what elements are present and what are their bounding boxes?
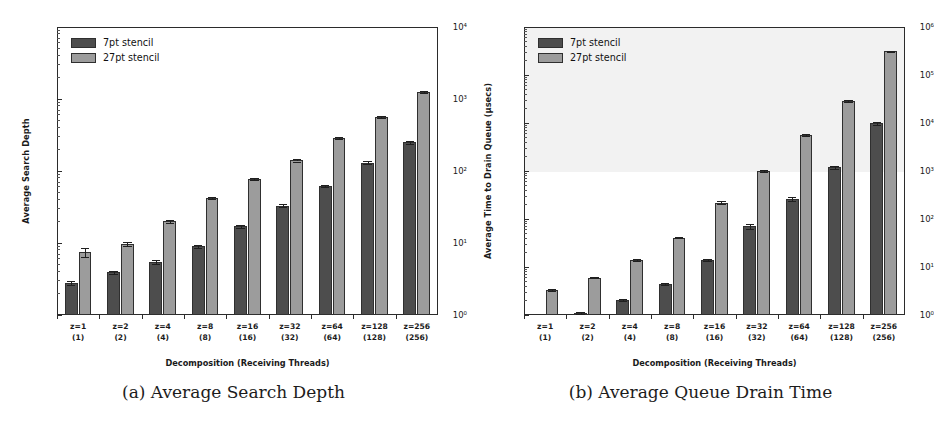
error-bar-cap xyxy=(844,100,852,101)
bar xyxy=(290,160,303,315)
y-tick-minor-mark xyxy=(524,130,527,131)
x-tick-label-top: z=2 xyxy=(112,322,128,331)
y-tick-minor-mark xyxy=(57,264,60,265)
y-tick-minor-mark xyxy=(524,127,527,128)
bar xyxy=(163,221,176,315)
error-bar-cap xyxy=(887,52,895,53)
error-bar-cap xyxy=(166,220,174,221)
x-tick-label-bottom: (8) xyxy=(666,333,678,342)
legend-label: 7pt stencil xyxy=(570,37,620,48)
y-axis-label-b: Average Time to Drain Queue (µsecs) xyxy=(483,27,493,315)
y-tick-minor-mark xyxy=(524,125,527,126)
y-tick-minor-mark xyxy=(57,186,60,187)
y-tick-minor-mark xyxy=(524,196,527,197)
x-tick-label-top: z=8 xyxy=(197,322,213,331)
bar xyxy=(673,238,686,315)
y-tick-minor-mark xyxy=(524,85,527,86)
error-bar-cap xyxy=(279,204,287,205)
x-tick-label: z=128(128) xyxy=(828,322,855,343)
error-bar-cap xyxy=(293,159,301,160)
y-tick-minor-mark xyxy=(524,173,527,174)
y-tick-minor-mark xyxy=(57,33,60,34)
y-tick-label: 10⁶ xyxy=(885,22,934,32)
error-bar-cap xyxy=(420,93,428,94)
y-tick-minor-mark xyxy=(57,114,60,115)
legend-item: 7pt stencil xyxy=(71,37,159,48)
bar xyxy=(828,167,841,315)
error-bar-cap xyxy=(675,238,683,239)
y-tick-minor-mark xyxy=(524,175,527,176)
bar xyxy=(546,290,559,315)
y-tick-mark xyxy=(524,123,529,124)
bar xyxy=(192,246,205,315)
bar xyxy=(417,92,430,315)
y-tick-minor-mark xyxy=(524,244,527,245)
x-tick-label: z=8(8) xyxy=(664,322,680,343)
bar xyxy=(206,198,219,315)
x-tick-label-top: z=8 xyxy=(664,322,680,331)
bar xyxy=(757,171,770,315)
x-tick-mark xyxy=(353,315,354,319)
x-tick-mark xyxy=(778,315,779,319)
error-bar-cap xyxy=(363,164,371,165)
y-tick-minor-mark xyxy=(57,136,60,137)
error-bar-cap xyxy=(717,204,725,205)
error-bar-cap xyxy=(81,257,89,258)
y-tick-mark xyxy=(524,75,529,76)
error-bar-cap xyxy=(335,139,343,140)
x-tick-label: z=256(256) xyxy=(404,322,431,343)
x-tick-label: z=1(1) xyxy=(70,322,86,343)
y-tick-minor-mark xyxy=(524,221,527,222)
x-tick-label-bottom: (2) xyxy=(581,333,593,342)
legend-b: 7pt stencil27pt stencil xyxy=(538,37,626,63)
x-tick-label: z=8(8) xyxy=(197,322,213,343)
legend-swatch-7pt xyxy=(538,38,563,48)
y-tick-minor-mark xyxy=(57,280,60,281)
error-bar xyxy=(85,248,86,257)
panel-average-search-depth: Average Search Depth 10⁰10¹10²10³10⁴ z=1… xyxy=(0,0,467,434)
x-axis-label-b: Decomposition (Receiving Threads) xyxy=(524,358,905,368)
x-tick-label-bottom: (64) xyxy=(323,333,341,342)
y-tick-minor-mark xyxy=(57,254,60,255)
x-tick-label-bottom: (16) xyxy=(239,333,257,342)
x-axis-label-a: Decomposition (Receiving Threads) xyxy=(57,358,438,368)
y-tick-minor-mark xyxy=(524,82,527,83)
y-tick-minor-mark xyxy=(57,293,60,294)
error-bar-cap xyxy=(250,178,258,179)
x-tick-label: z=32(32) xyxy=(279,322,300,343)
x-tick-label: z=64(64) xyxy=(321,322,342,343)
error-bar-cap xyxy=(873,125,881,126)
x-tick-mark xyxy=(99,315,100,319)
y-tick-minor-mark xyxy=(57,249,60,250)
x-tick-label-top: z=1 xyxy=(70,322,86,331)
bar xyxy=(107,272,120,315)
x-tick-label-bottom: (256) xyxy=(405,333,428,342)
caption-a: (a) Average Search Depth xyxy=(0,382,467,402)
y-tick-minor-mark xyxy=(524,133,527,134)
legend-swatch-7pt xyxy=(71,38,96,48)
error-bar-cap xyxy=(420,91,428,92)
bar xyxy=(630,260,643,315)
x-tick-label-top: z=2 xyxy=(579,322,595,331)
error-bar-cap xyxy=(194,248,202,249)
x-tick-label-top: z=32 xyxy=(746,322,767,331)
x-tick-label-top: z=128 xyxy=(828,322,855,331)
error-bar-cap xyxy=(236,225,244,226)
y-tick-minor-mark xyxy=(57,246,60,247)
y-tick-minor-mark xyxy=(524,281,527,282)
bar xyxy=(121,244,134,315)
y-axis-label-a: Average Search Depth xyxy=(21,27,31,315)
bar xyxy=(616,300,629,315)
error-bar-cap xyxy=(109,271,117,272)
y-tick-minor-mark xyxy=(524,204,527,205)
y-tick-minor-mark xyxy=(57,30,60,31)
x-tick-label-bottom: (64) xyxy=(790,333,808,342)
y-tick-minor-mark xyxy=(524,190,527,191)
y-tick-minor-mark xyxy=(57,174,60,175)
error-bar-cap xyxy=(703,259,711,260)
bar xyxy=(333,138,346,315)
error-bar-cap xyxy=(661,283,669,284)
y-tick-mark xyxy=(524,27,529,28)
error-bar-cap xyxy=(81,248,89,249)
error-bar-cap xyxy=(760,172,768,173)
